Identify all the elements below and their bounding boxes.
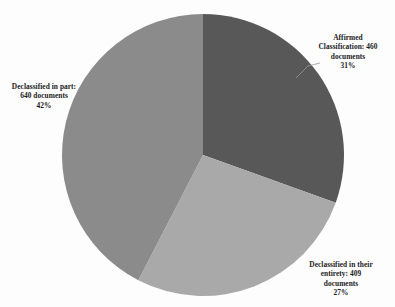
- pie-label-declassified-entirety: Declassified in their entirety: 409 docu…: [289, 260, 393, 297]
- pie-label-entirety-percent: 27%: [289, 288, 393, 297]
- pie-label-affirmed-line-3: documents: [303, 52, 393, 61]
- pie-chart-figure: Affirmed Classification: 460 documents 3…: [0, 0, 395, 307]
- pie-label-in-part-line-1: Declassified in part:: [1, 82, 87, 91]
- pie-label-entirety-line-3: documents: [289, 279, 393, 288]
- pie-label-declassified-in-part: Declassified in part: 640 documents 42%: [1, 82, 87, 110]
- pie-label-affirmed-percent: 31%: [303, 61, 393, 70]
- pie-label-affirmed-classification: Affirmed Classification: 460 documents 3…: [303, 33, 393, 70]
- pie-label-entirety-line-1: Declassified in their: [289, 260, 393, 269]
- pie-label-entirety-line-2: entirety: 409: [289, 269, 393, 278]
- pie-label-affirmed-line-1: Affirmed: [303, 33, 393, 42]
- pie-label-affirmed-line-2: Classification: 460: [303, 42, 393, 51]
- pie-label-in-part-line-2: 640 documents: [1, 91, 87, 100]
- pie-label-in-part-percent: 42%: [1, 101, 87, 110]
